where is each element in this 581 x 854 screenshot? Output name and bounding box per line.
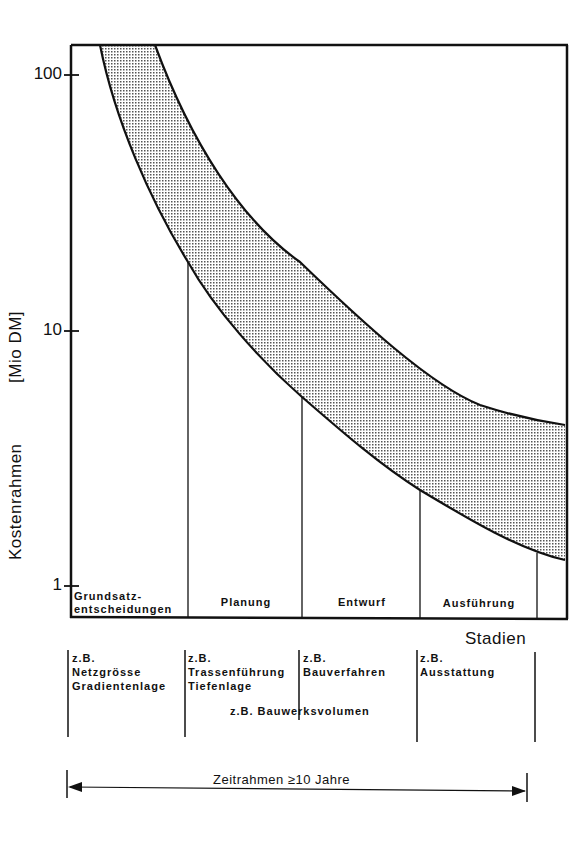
y-axis-label: Kostenrahmen [Mio DM]: [6, 311, 26, 560]
shared-example: z.B. Bauwerksvolumen: [230, 704, 370, 718]
y-axis-label-unit: [Mio DM]: [6, 311, 25, 383]
example-col-3: z.B. Bauverfahren: [303, 651, 386, 679]
y-axis-label-main: Kostenrahmen: [6, 443, 25, 560]
x-axis-label: Stadien: [465, 629, 526, 649]
timeframe-label: Zeitrahmen ≥10 Jahre: [213, 772, 350, 787]
stage-label-planung: Planung: [190, 596, 302, 608]
stage-label-ausfuehrung: Ausführung: [422, 597, 536, 609]
example-col-4: z.B. Ausstattung: [420, 651, 495, 679]
example-col-2: z.B. Trassenführung Tiefenlage: [188, 651, 285, 693]
y-tick-label-100: 100: [2, 64, 62, 84]
example-col-1: z.B. Netzgrösse Gradientenlage: [72, 651, 166, 693]
stage-label-entwurf: Entwurf: [304, 596, 420, 608]
stage-label-grundsatz: Grundsatz- entscheidungen: [74, 590, 172, 616]
y-tick-label-1: 1: [2, 575, 62, 595]
cost-band-area: [100, 45, 565, 560]
chart-canvas: [0, 0, 581, 854]
